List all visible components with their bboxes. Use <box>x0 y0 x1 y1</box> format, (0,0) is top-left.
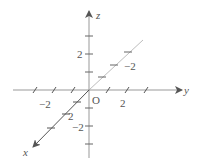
axes-diagram: z y x O 2 −2 −2 2 2 −2 <box>0 0 202 164</box>
x-tick-label-pos: 2 <box>68 110 74 122</box>
x-negative-tick-label: −2 <box>124 60 136 72</box>
x-axis-label: x <box>22 146 28 158</box>
origin-label: O <box>92 94 100 106</box>
y-axis-label: y <box>183 84 189 96</box>
z-axis <box>85 11 93 158</box>
y-tick-label-pos: 2 <box>120 97 126 109</box>
y-axis <box>13 87 182 93</box>
y-tick-label-neg: −2 <box>39 98 51 110</box>
z-tick-label-pos: 2 <box>77 48 83 60</box>
z-axis-label: z <box>95 9 101 21</box>
z-tick-label-neg: −2 <box>72 121 84 133</box>
